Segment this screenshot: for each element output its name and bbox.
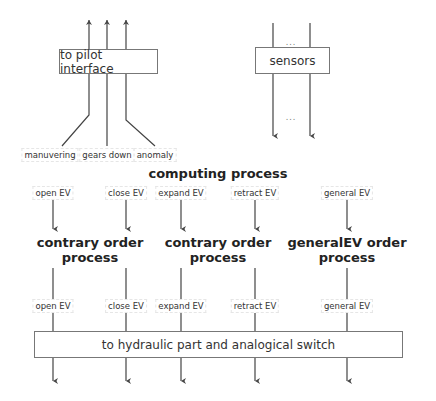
signal-anomaly: anomaly (134, 148, 177, 162)
sensors-ellipsis-top: ... (286, 38, 297, 47)
process-line2: process (37, 250, 144, 265)
pilot-interface-label: to pilot interface (60, 48, 157, 76)
hydraulic-label: to hydraulic part and analogical switch (102, 338, 335, 352)
sensors-label: sensors (269, 54, 315, 68)
output-open-ev: open EV (32, 299, 73, 313)
process-line1: contrary order (165, 235, 272, 250)
hydraulic-box: to hydraulic part and analogical switch (34, 331, 403, 358)
input-open-ev: open EV (32, 186, 73, 200)
sensors-box: sensors (255, 47, 330, 74)
input-expand-ev: expand EV (155, 186, 206, 200)
process-line2: process (287, 250, 406, 265)
pilot-interface-box: to pilot interface (59, 49, 158, 74)
input-general-ev: general EV (321, 186, 373, 200)
process-line1: contrary order (37, 235, 144, 250)
process-line2: process (165, 250, 272, 265)
process-line1: generalEV order (287, 235, 406, 250)
sensors-ellipsis-bottom: ... (286, 113, 297, 122)
output-expand-ev: expand EV (155, 299, 206, 313)
output-retract-ev: retract EV (231, 299, 279, 313)
process-general-ev: generalEV order process (287, 235, 406, 265)
computing-process-title: computing process (148, 166, 287, 181)
output-general-ev: general EV (321, 299, 373, 313)
input-close-ev: close EV (105, 186, 147, 200)
signal-manuvering: manuvering (21, 148, 78, 162)
process-contrary-open-close: contrary order process (37, 235, 144, 265)
input-retract-ev: retract EV (231, 186, 279, 200)
output-close-ev: close EV (105, 299, 147, 313)
signal-gears-down: gears down (79, 148, 134, 162)
process-contrary-expand-retract: contrary order process (165, 235, 272, 265)
